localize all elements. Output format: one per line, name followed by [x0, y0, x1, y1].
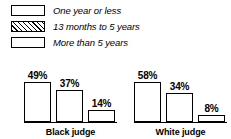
bar-13-months-to-5-years: [56, 90, 83, 122]
legend-item-label: 13 months to 5 years: [53, 21, 140, 32]
empty-swatch-icon: [11, 37, 45, 48]
bar-group-black-judge: 49% 37% 14% Black judge: [24, 60, 117, 139]
bar-group-white-judge: 58% 34% 8% White judge: [134, 60, 227, 139]
group-baseline: [24, 122, 117, 123]
bar-slot: 8%: [198, 70, 225, 122]
bar-more-than-5-years: [198, 115, 225, 122]
bar-slot: 14%: [88, 70, 115, 122]
bar-value-label: 34%: [170, 81, 189, 92]
legend-item-13-months-to-5-years: 13 months to 5 years: [11, 19, 223, 34]
legend-item-more-than-5-years: More than 5 years: [11, 35, 223, 50]
chart-legend: One year or less 13 months to 5 years Mo…: [11, 3, 223, 51]
group-baseline: [134, 122, 227, 123]
bar-slot: 34%: [166, 70, 193, 122]
hatched-swatch-icon: [11, 21, 45, 32]
bar-group-bars: 49% 37% 14%: [24, 70, 117, 122]
legend-item-label: One year or less: [53, 5, 121, 16]
bar-group-bars: 58% 34% 8%: [134, 70, 227, 122]
bar-value-label: 58%: [138, 70, 157, 81]
bar-13-months-to-5-years: [166, 93, 193, 122]
bar-more-than-5-years: [88, 110, 115, 122]
bar-chart-figure: One year or less 13 months to 5 years Mo…: [0, 0, 231, 139]
dotted-swatch-icon: [11, 5, 45, 16]
bar-one-year-or-less: [134, 82, 161, 122]
plot-area: 49% 37% 14% Black judge 58%: [0, 60, 231, 139]
bar-slot: 49%: [24, 70, 51, 122]
bar-value-label: 8%: [204, 103, 218, 114]
bar-one-year-or-less: [24, 82, 51, 122]
bar-slot: 58%: [134, 70, 161, 122]
group-axis-label: White judge: [134, 127, 227, 137]
bar-value-label: 37%: [60, 78, 79, 89]
group-axis-label: Black judge: [24, 127, 117, 137]
bar-slot: 37%: [56, 70, 83, 122]
bar-value-label: 49%: [28, 70, 47, 81]
legend-item-one-year-or-less: One year or less: [11, 3, 223, 18]
bar-value-label: 14%: [92, 98, 111, 109]
legend-item-label: More than 5 years: [53, 37, 128, 48]
